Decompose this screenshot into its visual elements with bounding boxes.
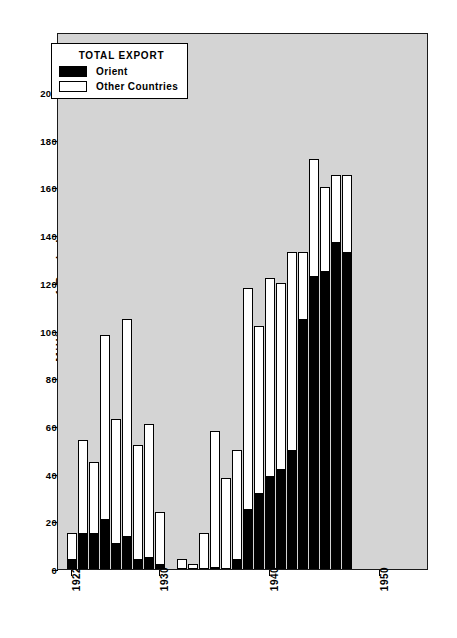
bar	[199, 533, 209, 569]
bar-segment-orient	[287, 450, 297, 569]
legend-entries: OrientOther Countries	[59, 66, 180, 92]
bar-segment-orient	[232, 559, 242, 569]
bar	[265, 278, 275, 569]
legend-swatch-other-countries	[59, 81, 87, 92]
bar	[287, 252, 297, 569]
bar	[210, 431, 220, 569]
legend-entry: Other Countries	[59, 81, 180, 92]
x-tick-label: 1950	[379, 556, 390, 602]
bar	[342, 175, 352, 569]
plot-area	[57, 33, 428, 570]
bar	[254, 326, 264, 569]
bar	[309, 159, 319, 569]
bar-segment-orient	[254, 493, 264, 569]
bar	[89, 462, 99, 569]
bar-segment-orient	[122, 536, 132, 569]
bar	[177, 559, 187, 569]
bar-segment-orient	[320, 271, 330, 569]
x-tick-label: 1930	[159, 556, 170, 602]
export-bar-chart: Millions of Bushels 02040608010012014016…	[0, 0, 457, 638]
legend-label: Other Countries	[96, 81, 178, 92]
bar	[133, 445, 143, 569]
bar-segment-orient	[342, 252, 352, 569]
bar	[298, 252, 308, 569]
x-tick-label: 1940	[269, 556, 280, 602]
legend-entry: Orient	[59, 66, 180, 77]
bar	[78, 440, 88, 569]
bar-segment-orient	[111, 543, 121, 569]
chart-legend: TOTAL EXPORT OrientOther Countries	[51, 43, 188, 99]
bar	[188, 564, 198, 569]
bar	[122, 319, 132, 569]
bar-segment-orient	[133, 559, 143, 569]
bar-segment-orient	[298, 319, 308, 569]
bar-segment-orient	[210, 567, 220, 569]
legend-swatch-orient	[59, 66, 87, 77]
legend-label: Orient	[96, 66, 128, 77]
bar-segment-orient	[100, 519, 110, 569]
bar	[144, 424, 154, 569]
bar	[232, 450, 242, 569]
bars-container	[58, 34, 427, 569]
bar	[320, 187, 330, 569]
bar	[243, 288, 253, 569]
bar-segment-orient	[89, 533, 99, 569]
bar	[100, 335, 110, 569]
bar-segment-orient	[276, 469, 286, 569]
bar-segment-orient	[331, 242, 341, 569]
bar-segment-orient	[144, 557, 154, 569]
x-tick-label: 1922	[71, 556, 82, 602]
bar	[221, 478, 231, 569]
x-axis-ticks: 192219301940195019601970	[0, 570, 457, 638]
bar-segment-orient	[243, 509, 253, 569]
bar	[111, 419, 121, 569]
bar-segment-orient	[309, 276, 319, 569]
legend-title: TOTAL EXPORT	[59, 50, 180, 61]
bar	[276, 283, 286, 569]
bar	[331, 175, 341, 569]
